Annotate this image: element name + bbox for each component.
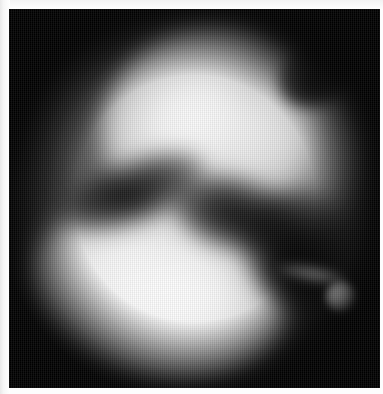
page-canvas [0,0,383,394]
plate-background [9,9,380,388]
scan-image-plate[interactable] [9,9,380,388]
